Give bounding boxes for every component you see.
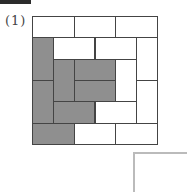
shaded-rectangle (32, 80, 54, 124)
shaded-rectangle (74, 59, 117, 81)
problem-number: (1) (5, 13, 26, 28)
blank-rectangle (95, 37, 138, 59)
blank-rectangle (95, 101, 138, 123)
blank-rectangle (115, 16, 158, 38)
blank-rectangle (115, 59, 137, 103)
tiling-grid (32, 16, 157, 144)
answer-box-corner (133, 152, 187, 192)
shaded-rectangle (53, 59, 75, 103)
shaded-rectangle (53, 101, 96, 123)
shaded-rectangle (74, 80, 117, 102)
section-tab (0, 0, 31, 4)
blank-rectangle (136, 80, 158, 124)
blank-rectangle (74, 16, 117, 38)
shaded-rectangle (32, 123, 75, 145)
blank-rectangle (74, 123, 117, 145)
blank-rectangle (115, 123, 158, 145)
blank-rectangle (136, 37, 158, 81)
blank-rectangle (53, 37, 96, 59)
blank-rectangle (32, 16, 75, 38)
shaded-rectangle (32, 37, 54, 81)
